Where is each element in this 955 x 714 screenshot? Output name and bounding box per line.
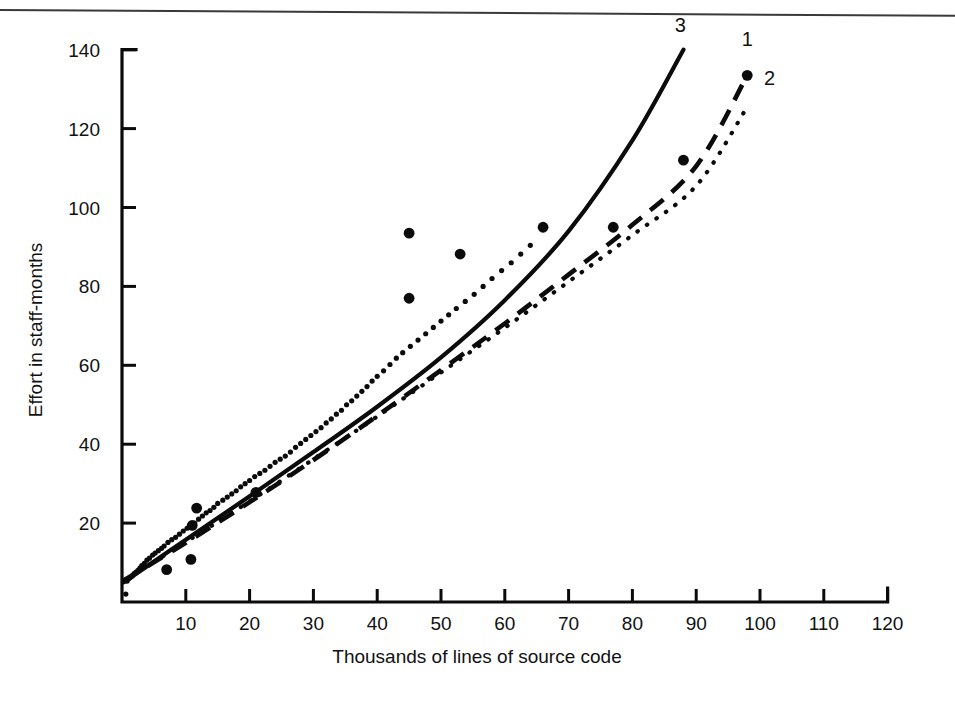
- data-point: [608, 222, 619, 233]
- y-axis-tick-marks: [122, 50, 136, 523]
- data-point: [499, 268, 504, 273]
- x-axis-tick-labels: 102030405060708090100110120: [175, 613, 903, 634]
- y-axis-tick-labels: 20406080100120140: [68, 40, 100, 534]
- data-point: [423, 331, 428, 336]
- data-point: [334, 412, 339, 417]
- x-axis-tick-marks: [186, 589, 888, 602]
- data-point: [678, 155, 689, 166]
- data-point: [404, 293, 415, 304]
- y-tick-label: 100: [68, 198, 100, 219]
- data-point: [538, 222, 549, 233]
- data-point: [472, 292, 477, 297]
- y-tick-label: 20: [79, 513, 100, 534]
- data-point: [308, 433, 313, 438]
- data-point: [408, 344, 413, 349]
- data-point: [370, 378, 375, 383]
- x-tick-label: 60: [494, 613, 515, 634]
- data-point: [267, 464, 272, 469]
- x-tick-label: 20: [239, 613, 260, 634]
- data-point: [339, 408, 344, 413]
- data-point: [364, 384, 369, 389]
- data-point: [243, 481, 248, 486]
- data-point: [273, 460, 278, 465]
- data-point: [742, 70, 753, 81]
- data-point: [257, 471, 262, 476]
- data-point: [262, 468, 267, 473]
- curve-label-group: 312: [675, 14, 775, 89]
- figure-page: 102030405060708090100110120 204060801001…: [0, 0, 955, 714]
- data-point: [354, 393, 359, 398]
- data-point: [293, 445, 298, 450]
- data-point: [375, 374, 380, 379]
- data-point: [400, 350, 405, 355]
- data-point: [161, 564, 172, 575]
- y-tick-label: 40: [79, 434, 100, 455]
- data-point: [349, 398, 354, 403]
- data-point: [225, 494, 230, 499]
- y-tick-label: 80: [79, 276, 100, 297]
- x-tick-label: 40: [367, 613, 388, 634]
- data-point: [318, 425, 323, 430]
- data-point: [313, 429, 318, 434]
- data-point: [283, 453, 288, 458]
- data-point: [509, 260, 514, 265]
- data-point: [463, 299, 468, 304]
- data-point: [238, 484, 243, 489]
- x-tick-label: 110: [809, 613, 839, 634]
- data-point: [186, 554, 197, 565]
- data-point: [215, 501, 220, 506]
- x-tick-label: 10: [175, 613, 196, 634]
- data-point: [454, 306, 459, 311]
- data-point: [229, 491, 234, 496]
- data-point: [489, 276, 494, 281]
- data-point: [329, 416, 334, 421]
- data-point: [220, 498, 225, 503]
- x-tick-label: 80: [622, 613, 643, 634]
- y-tick-label: 140: [68, 40, 100, 61]
- data-point: [298, 441, 303, 446]
- data-point: [247, 478, 252, 483]
- data-point: [211, 505, 216, 510]
- regression-curve-3: [124, 50, 684, 583]
- x-tick-label: 90: [686, 613, 707, 634]
- data-point: [192, 521, 197, 526]
- x-tick-label: 120: [872, 613, 904, 634]
- curve-label-1: 1: [742, 28, 753, 50]
- data-point: [162, 543, 167, 548]
- data-point: [381, 368, 386, 373]
- data-point: [387, 362, 392, 367]
- data-point: [252, 474, 257, 479]
- data-point: [359, 389, 364, 394]
- x-tick-label: 30: [303, 613, 324, 634]
- curve-label-2: 2: [764, 67, 775, 89]
- y-tick-label: 60: [79, 355, 100, 376]
- effort-vs-kloc-scatter-chart: 102030405060708090100110120 204060801001…: [0, 0, 955, 714]
- y-tick-label: 120: [68, 119, 100, 140]
- x-tick-label: 70: [558, 613, 579, 634]
- data-point: [438, 319, 443, 324]
- data-point: [344, 402, 349, 407]
- data-point: [394, 356, 399, 361]
- x-tick-label: 100: [744, 613, 776, 634]
- x-axis-title: Thousands of lines of source code: [332, 646, 621, 667]
- y-axis-title: Effort in staff-months: [25, 243, 46, 418]
- data-point: [455, 249, 466, 260]
- data-point: [431, 325, 436, 330]
- data-point: [278, 457, 283, 462]
- data-point: [191, 503, 202, 514]
- data-point: [234, 488, 239, 493]
- data-point: [303, 437, 308, 442]
- data-point: [528, 243, 533, 248]
- regression-curve-2: [124, 107, 747, 580]
- data-point: [518, 251, 523, 256]
- curve-label-3: 3: [675, 14, 686, 36]
- data-point: [251, 487, 262, 498]
- data-point: [288, 449, 293, 454]
- data-point: [123, 592, 128, 597]
- data-point: [404, 228, 415, 239]
- data-point: [324, 420, 329, 425]
- x-tick-label: 50: [430, 613, 451, 634]
- data-point: [481, 284, 486, 289]
- data-point: [446, 312, 451, 317]
- data-point: [415, 337, 420, 342]
